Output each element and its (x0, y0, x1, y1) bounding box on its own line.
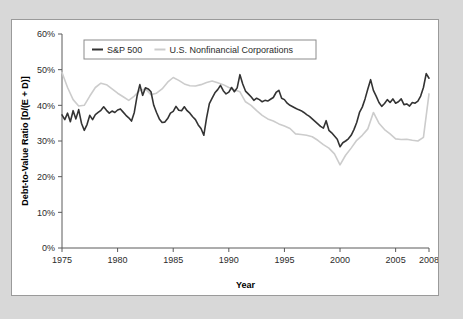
series-line-u-s-nonfinancial-corporations (62, 73, 429, 165)
chart-legend: S&P 500U.S. Nonfinancial Corporations (84, 40, 316, 59)
y-axis-title: Debt-to-Value Ratio [D/(E + D)] (20, 76, 30, 205)
x-tick-label: 1985 (163, 255, 183, 265)
chart-series-group (62, 73, 429, 165)
y-tick-label: 20% (37, 172, 55, 182)
x-axis-title: Year (236, 280, 256, 290)
legend-label: U.S. Nonfinancial Corporations (169, 45, 293, 55)
x-tick-label: 1995 (274, 255, 294, 265)
y-tick-label: 10% (37, 208, 55, 218)
page-root: 0%10%20%30%40%50%60% 1975198019851990199… (0, 0, 463, 319)
y-tick-label: 0% (42, 243, 55, 253)
legend-label: S&P 500 (107, 45, 142, 55)
y-axis-ticks: 0%10%20%30%40%50%60% (37, 29, 62, 253)
y-tick-label: 40% (37, 101, 55, 111)
y-tick-label: 50% (37, 65, 55, 75)
figure-panel: 0%10%20%30%40%50%60% 1975198019851990199… (11, 19, 439, 296)
x-tick-label: 2005 (386, 255, 406, 265)
debt-to-value-ratio-line-chart: 0%10%20%30%40%50%60% 1975198019851990199… (12, 20, 438, 295)
y-tick-label: 60% (37, 29, 55, 39)
x-tick-label: 1975 (52, 255, 72, 265)
x-tick-label: 2008 (419, 255, 438, 265)
x-tick-label: 2000 (330, 255, 350, 265)
x-tick-label: 1980 (108, 255, 128, 265)
y-tick-label: 30% (37, 136, 55, 146)
x-tick-label: 1990 (219, 255, 239, 265)
x-axis-ticks: 19751980198519901995200020052008 (52, 248, 438, 265)
chart-plot-area: 0%10%20%30%40%50%60% 1975198019851990199… (12, 20, 438, 295)
series-line-s-p-500 (62, 74, 429, 147)
